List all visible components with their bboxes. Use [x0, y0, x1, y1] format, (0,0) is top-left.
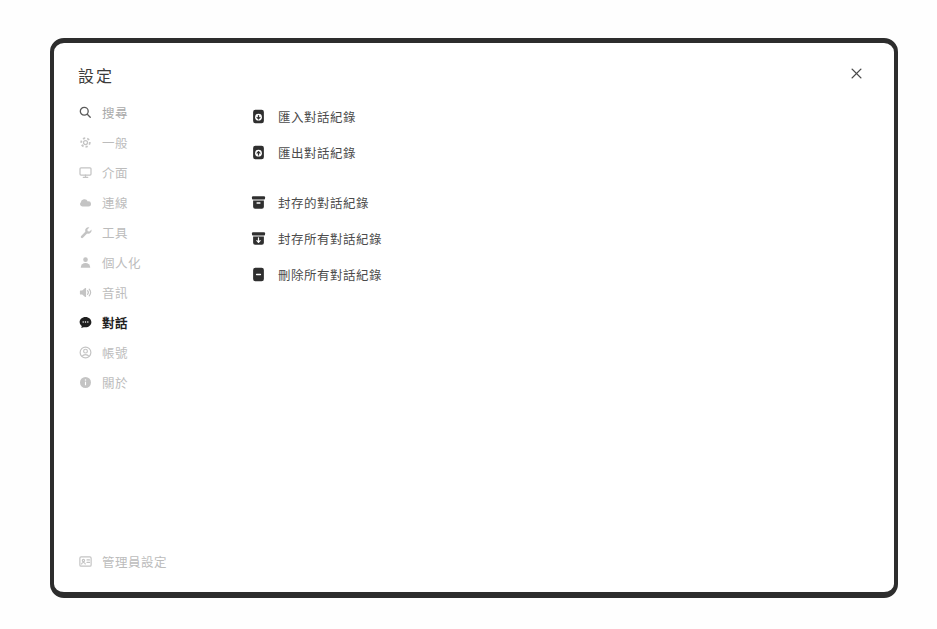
sidebar-item-label: 音訊 [102, 283, 128, 302]
search-icon [78, 105, 93, 120]
speaker-icon [78, 285, 93, 300]
sidebar-item-label: 工具 [102, 223, 128, 242]
close-button[interactable] [844, 63, 868, 87]
monitor-icon [78, 165, 93, 180]
archive-box-arrow-icon [250, 230, 267, 247]
close-icon [849, 66, 864, 84]
id-badge-icon [78, 554, 93, 569]
action-label: 封存的對話紀錄 [278, 193, 369, 212]
sidebar-item-label: 關於 [102, 373, 128, 392]
gear-icon [78, 135, 93, 150]
sidebar-item-about[interactable]: 關於 [78, 367, 250, 397]
sidebar-item-interface[interactable]: 介面 [78, 157, 250, 187]
modal-body: 搜尋 一般 [54, 91, 894, 592]
admin-settings-button[interactable]: 管理員設定 [78, 546, 250, 576]
sidebar-item-audio[interactable]: 音訊 [78, 277, 250, 307]
sidebar-item-account[interactable]: 帳號 [78, 337, 250, 367]
document-minus-icon [250, 266, 267, 283]
sidebar-item-label: 帳號 [102, 343, 128, 362]
search-placeholder: 搜尋 [102, 103, 128, 122]
archived-chats-button[interactable]: 封存的對話紀錄 [250, 187, 369, 217]
document-arrow-down-icon [250, 108, 267, 125]
modal-header: 設定 [54, 43, 894, 91]
sidebar-item-connections[interactable]: 連線 [78, 187, 250, 217]
info-icon [78, 375, 93, 390]
sidebar-item-label: 介面 [102, 163, 128, 182]
sidebar-item-label: 對話 [102, 313, 128, 332]
sidebar-item-label: 個人化 [102, 253, 141, 272]
user-circle-icon [78, 345, 93, 360]
action-label: 刪除所有對話紀錄 [278, 265, 382, 284]
search-input[interactable]: 搜尋 [78, 97, 250, 127]
sidebar-item-label: 一般 [102, 133, 128, 152]
modal-title: 設定 [78, 63, 114, 87]
chats-settings-panel: 匯入對話紀錄 匯出對話紀錄 [250, 95, 868, 592]
sidebar-item-chats[interactable]: 對話 [78, 307, 250, 337]
sidebar-item-label: 連線 [102, 193, 128, 212]
archive-box-icon [250, 194, 267, 211]
archive-all-chats-button[interactable]: 封存所有對話紀錄 [250, 223, 382, 253]
wrench-icon [78, 225, 93, 240]
action-label: 匯入對話紀錄 [278, 107, 356, 126]
action-label: 匯出對話紀錄 [278, 143, 356, 162]
sidebar-item-general[interactable]: 一般 [78, 127, 250, 157]
sidebar-item-personalization[interactable]: 個人化 [78, 247, 250, 277]
admin-settings-label: 管理員設定 [102, 552, 167, 571]
delete-all-chats-button[interactable]: 刪除所有對話紀錄 [250, 259, 382, 289]
cloud-icon [78, 195, 93, 210]
action-label: 封存所有對話紀錄 [278, 229, 382, 248]
export-chats-button[interactable]: 匯出對話紀錄 [250, 137, 356, 167]
chat-bubble-icon [78, 315, 93, 330]
document-arrow-up-icon [250, 144, 267, 161]
sidebar-item-tools[interactable]: 工具 [78, 217, 250, 247]
page-background: 設定 搜尋 [0, 0, 937, 629]
settings-sidebar: 搜尋 一般 [78, 95, 250, 592]
action-group-divider [250, 173, 868, 187]
settings-modal: 設定 搜尋 [50, 38, 898, 598]
import-chats-button[interactable]: 匯入對話紀錄 [250, 101, 356, 131]
person-icon [78, 255, 93, 270]
